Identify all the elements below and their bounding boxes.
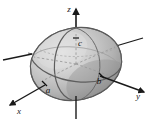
- axis-label-z: z: [66, 4, 71, 14]
- axis-label-x: x: [16, 106, 21, 116]
- y-axis-negative-ray: [3, 54, 32, 60]
- figure-canvas: z y x a b c: [0, 0, 153, 123]
- semi-axis-label-b: b: [97, 76, 102, 86]
- x-axis-negative-ray: [116, 38, 143, 46]
- axis-label-y: y: [135, 91, 140, 101]
- x-axis-front: [10, 85, 45, 105]
- ellipsoid-body: [24, 19, 139, 114]
- semi-axis-label-a: a: [46, 85, 51, 95]
- ellipsoid-figure: z y x a b c: [0, 0, 153, 123]
- semi-axis-label-c: c: [78, 38, 82, 48]
